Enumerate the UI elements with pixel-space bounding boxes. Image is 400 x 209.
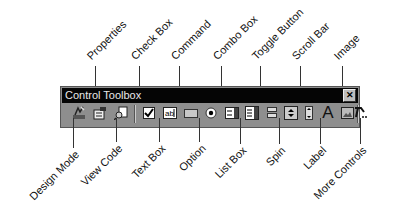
label-icon: A [322, 105, 333, 121]
text-box-icon: ab [163, 107, 177, 119]
leader-spin [279, 118, 280, 144]
label-spin: Spin [263, 144, 287, 168]
command-button[interactable] [183, 105, 199, 121]
leader-design-mode [73, 118, 74, 148]
label-option: Option [176, 142, 207, 173]
scroll-bar-icon [305, 106, 313, 120]
label-design-mode: Design Mode [27, 148, 81, 202]
label-image: Image [332, 32, 362, 62]
more-controls-button[interactable] [352, 104, 368, 120]
spin-button[interactable] [283, 105, 299, 121]
leader-list-box [240, 118, 241, 144]
scroll-bar-button[interactable] [301, 105, 317, 121]
leader-label [320, 118, 321, 144]
option-button-icon [205, 107, 217, 119]
label-button[interactable]: A [320, 105, 336, 121]
close-button[interactable]: ✕ [343, 89, 356, 102]
check-box-button[interactable] [141, 105, 157, 121]
leader-text-box [159, 118, 160, 142]
label-command: Command [169, 18, 213, 62]
label-label: Label [301, 144, 329, 172]
control-toolbox: Control Toolbox ✕ ab [60, 86, 360, 128]
label-text-box: Text Box [129, 142, 167, 180]
leader-option [199, 118, 200, 142]
title-bar[interactable]: Control Toolbox ✕ [62, 88, 358, 103]
check-box-icon [143, 107, 155, 119]
leader-more-controls [360, 118, 361, 144]
svg-text:ab: ab [165, 109, 174, 118]
label-list-box: List Box [212, 144, 248, 180]
command-button-icon [184, 109, 198, 118]
close-icon: ✕ [346, 90, 354, 100]
combo-box-icon [225, 107, 239, 119]
design-mode-icon [72, 106, 86, 120]
properties-button[interactable] [92, 105, 108, 121]
list-box-button[interactable] [244, 105, 260, 121]
list-box-icon [245, 106, 259, 120]
text-box-button[interactable]: ab [162, 105, 178, 121]
toggle-button-icon [267, 107, 277, 119]
toolbar-separator [134, 105, 136, 123]
spin-button-icon [284, 106, 298, 120]
label-view-code: View Code [79, 142, 125, 188]
label-check-box: Check Box [129, 16, 175, 62]
combo-box-button[interactable] [224, 105, 240, 121]
properties-icon [93, 106, 107, 120]
more-controls-icon [353, 105, 367, 119]
window-title: Control Toolbox [65, 89, 141, 101]
toggle-button-button[interactable] [264, 105, 280, 121]
label-properties: Properties [85, 18, 129, 62]
leader-view-code [116, 118, 117, 142]
option-button[interactable] [203, 105, 219, 121]
label-scroll-bar: Scroll Bar [290, 20, 332, 62]
